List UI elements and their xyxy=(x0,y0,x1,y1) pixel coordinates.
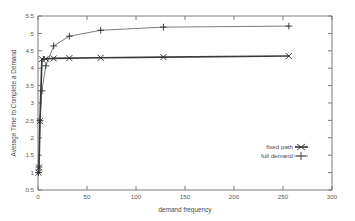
x-axis-ticks: 050100150200250300 xyxy=(36,16,337,200)
legend-label-full-demand: full demand xyxy=(261,152,294,159)
chart-figure: 0.511.522.533.544.555.5 0501001502002503… xyxy=(0,0,355,221)
y-tick-label: 1 xyxy=(31,169,35,176)
legend-marker-plus-icon xyxy=(294,152,308,160)
chart-canvas: 0.511.522.533.544.555.5 0501001502002503… xyxy=(0,0,355,221)
marker-plus-icon xyxy=(160,24,167,31)
x-tick-label: 50 xyxy=(84,193,91,200)
series-fixed-path xyxy=(35,53,291,176)
x-tick-label: 250 xyxy=(278,193,289,200)
y-tick-label: 5.5 xyxy=(25,12,34,19)
series-full-demand xyxy=(35,23,292,176)
y-axis-title: Average Time to Complete a Demand xyxy=(10,49,18,156)
y-tick-label: 3.5 xyxy=(25,82,34,89)
y-tick-label: 1.5 xyxy=(25,151,34,158)
x-tick-label: 150 xyxy=(180,193,191,200)
y-tick-label: 4 xyxy=(31,64,35,71)
marker-plus-icon xyxy=(42,62,49,69)
y-tick-label: 4.5 xyxy=(25,47,34,54)
y-tick-label: 5 xyxy=(31,30,35,37)
marker-plus-icon xyxy=(50,43,57,50)
legend-label-fixed-path: fixed path xyxy=(266,143,293,150)
x-tick-label: 200 xyxy=(229,193,240,200)
y-tick-label: 2.5 xyxy=(25,117,34,124)
chart-legend: fixed path full demand xyxy=(261,143,308,160)
x-tick-label: 0 xyxy=(36,193,40,200)
y-tick-label: 0.5 xyxy=(25,186,34,193)
plot-frame xyxy=(38,16,332,190)
marker-plus-icon xyxy=(285,23,292,30)
marker-plus-icon xyxy=(39,87,46,94)
x-axis-title: demand frequency xyxy=(159,206,213,214)
marker-plus-icon xyxy=(66,33,73,40)
y-tick-label: 2 xyxy=(31,134,35,141)
x-tick-label: 100 xyxy=(131,193,142,200)
x-tick-label: 300 xyxy=(327,193,338,200)
legend-marker-x-icon xyxy=(295,144,308,150)
y-tick-label: 3 xyxy=(31,99,35,106)
marker-plus-icon xyxy=(97,27,104,34)
y-axis-ticks: 0.511.522.533.544.555.5 xyxy=(25,12,332,193)
